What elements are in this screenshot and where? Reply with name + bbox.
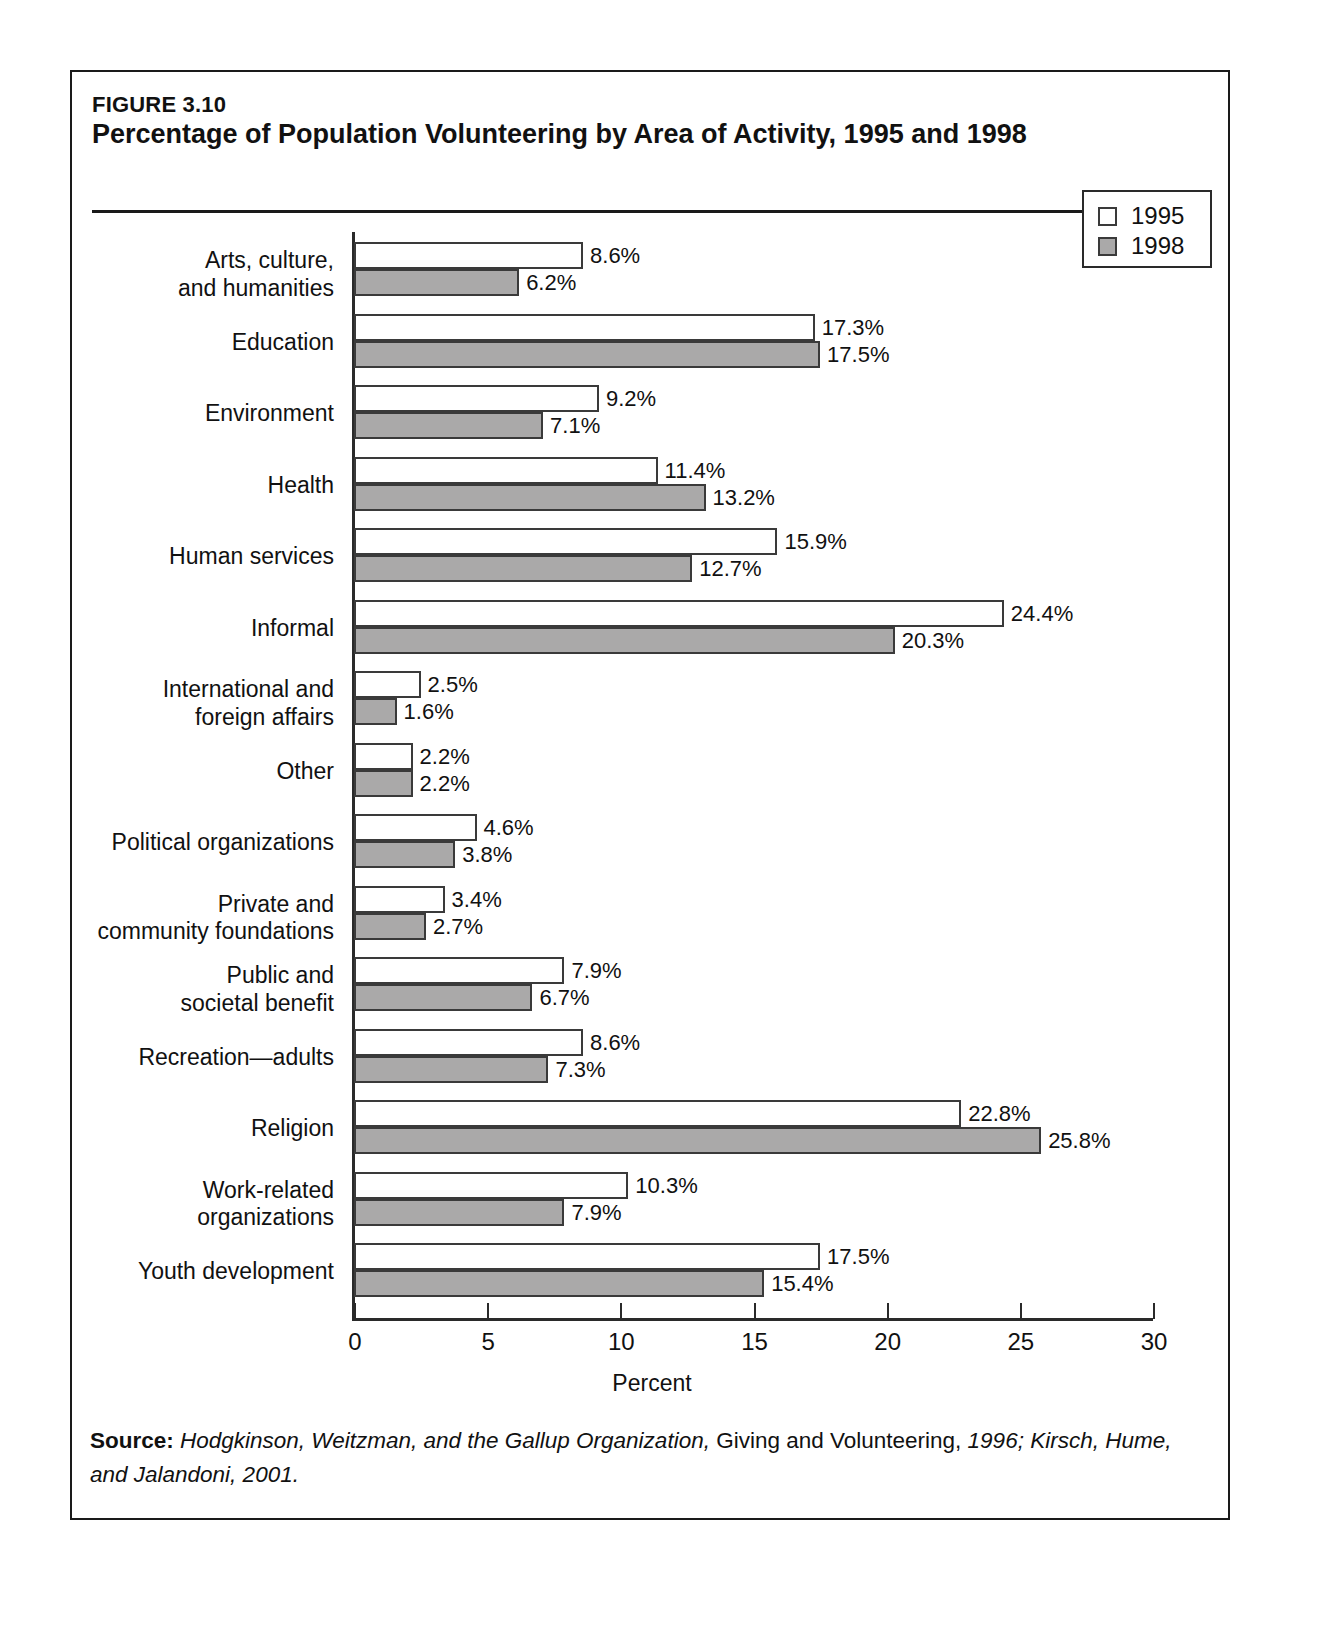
figure-number: FIGURE 3.10 [92, 92, 226, 118]
bar-1995 [354, 1172, 628, 1199]
bar-1995 [354, 1100, 961, 1127]
bar-group: Work-relatedorganizations10.3%7.9% [72, 1172, 1232, 1226]
source-lead: Source: [90, 1428, 174, 1453]
legend-item-1998: 1998 [1098, 231, 1210, 261]
source-part-1: Hodgkinson, Weitzman, and the Gallup Org… [174, 1428, 716, 1453]
bar-1995 [354, 814, 477, 841]
bar-1998 [354, 1127, 1041, 1154]
x-tick-0 [354, 1303, 356, 1319]
bar-1998 [354, 627, 895, 654]
bar-group: Religion22.8%25.8% [72, 1100, 1232, 1154]
bar-1998 [354, 1056, 548, 1083]
bar-value-1998: 3.8% [462, 841, 512, 868]
x-tick-label-20: 20 [858, 1328, 918, 1356]
bar-value-1998: 7.9% [571, 1199, 621, 1226]
legend-label-1998: 1998 [1131, 232, 1184, 260]
category-label: Recreation—adults [72, 1044, 334, 1072]
bar-1995 [354, 671, 421, 698]
figure-title: Percentage of Population Volunteering by… [92, 118, 1142, 152]
legend-swatch-1998-icon [1098, 237, 1117, 256]
bar-value-1998: 2.2% [420, 770, 470, 797]
bar-group: Youth development17.5%15.4% [72, 1243, 1232, 1297]
category-label: Health [72, 472, 334, 500]
bar-group: Human services15.9%12.7% [72, 528, 1232, 582]
x-axis-title: Percent [72, 1370, 1232, 1397]
bar-1995 [354, 886, 445, 913]
bar-value-1995: 10.3% [635, 1172, 697, 1199]
bar-value-1995: 17.3% [822, 314, 884, 341]
bar-value-1995: 11.4% [665, 457, 726, 484]
x-tick-10 [620, 1303, 622, 1319]
bar-1998 [354, 984, 532, 1011]
x-tick-25 [1020, 1303, 1022, 1319]
category-label: Environment [72, 400, 334, 428]
category-label: Private andcommunity foundations [72, 891, 334, 946]
bar-value-1998: 7.3% [555, 1056, 605, 1083]
bar-1995 [354, 1243, 820, 1270]
bar-value-1998: 13.2% [713, 484, 775, 511]
bar-1995 [354, 457, 658, 484]
x-tick-label-0: 0 [325, 1328, 385, 1356]
bar-group: Arts, culture,and humanities8.6%6.2% [72, 242, 1232, 296]
category-label: Education [72, 329, 334, 357]
bar-value-1995: 4.6% [484, 814, 534, 841]
bar-value-1998: 20.3% [902, 627, 964, 654]
bar-1998 [354, 269, 519, 296]
bar-value-1995: 7.9% [571, 957, 621, 984]
bar-group: Political organizations4.6%3.8% [72, 814, 1232, 868]
legend-swatch-1995-icon [1098, 207, 1117, 226]
bar-value-1995: 2.5% [428, 671, 478, 698]
category-label: Other [72, 758, 334, 786]
x-tick-15 [754, 1303, 756, 1319]
bar-value-1998: 6.2% [526, 269, 576, 296]
bar-value-1998: 25.8% [1048, 1127, 1110, 1154]
x-tick-label-15: 15 [725, 1328, 785, 1356]
bar-value-1998: 6.7% [539, 984, 589, 1011]
bar-value-1998: 17.5% [827, 341, 889, 368]
bar-value-1995: 17.5% [827, 1243, 889, 1270]
bar-1995 [354, 314, 815, 341]
bar-group: Environment9.2%7.1% [72, 385, 1232, 439]
bar-group: International andforeign affairs2.5%1.6% [72, 671, 1232, 725]
bar-1995 [354, 1029, 583, 1056]
bar-value-1998: 15.4% [771, 1270, 833, 1297]
bar-1998 [354, 412, 543, 439]
bar-1998 [354, 484, 706, 511]
source-publication-title: Giving and Volunteering, [716, 1428, 961, 1453]
x-tick-20 [887, 1303, 889, 1319]
legend-label-1995: 1995 [1131, 202, 1184, 230]
bar-value-1995: 22.8% [968, 1100, 1030, 1127]
bar-group: Private andcommunity foundations3.4%2.7% [72, 886, 1232, 940]
bar-value-1998: 7.1% [550, 412, 600, 439]
bar-group: Education17.3%17.5% [72, 314, 1232, 368]
category-label: Public andsocietal benefit [72, 962, 334, 1017]
category-label: International andforeign affairs [72, 676, 334, 731]
bar-1995 [354, 743, 413, 770]
bar-1998 [354, 913, 426, 940]
bar-1998 [354, 841, 455, 868]
chart-legend: 1995 1998 [1082, 190, 1212, 268]
figure-frame: FIGURE 3.10 Percentage of Population Vol… [70, 70, 1230, 1520]
bar-1998 [354, 770, 413, 797]
category-label: Informal [72, 615, 334, 643]
bar-value-1995: 24.4% [1011, 600, 1073, 627]
bar-1998 [354, 698, 397, 725]
x-axis-line [352, 1318, 1153, 1321]
x-tick-label-5: 5 [458, 1328, 518, 1356]
bar-group: Recreation—adults8.6%7.3% [72, 1029, 1232, 1083]
bar-value-1998: 2.7% [433, 913, 483, 940]
bar-1995 [354, 385, 599, 412]
x-tick-30 [1153, 1303, 1155, 1319]
legend-item-1995: 1995 [1098, 201, 1210, 231]
bar-1998 [354, 1270, 764, 1297]
bar-value-1995: 2.2% [420, 743, 470, 770]
x-tick-label-10: 10 [591, 1328, 651, 1356]
bar-1998 [354, 341, 820, 368]
bar-group: Health11.4%13.2% [72, 457, 1232, 511]
bar-value-1995: 8.6% [590, 242, 640, 269]
bar-group: Other2.2%2.2% [72, 743, 1232, 797]
bar-1998 [354, 555, 692, 582]
bar-1998 [354, 1199, 564, 1226]
category-label: Work-relatedorganizations [72, 1177, 334, 1232]
bar-value-1998: 1.6% [404, 698, 454, 725]
